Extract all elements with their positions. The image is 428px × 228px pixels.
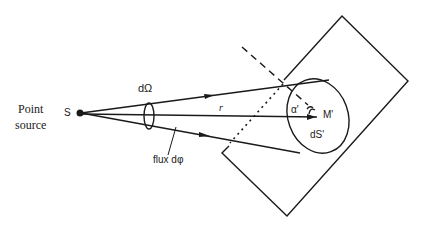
point-label: M' <box>323 110 333 120</box>
distance-label: r <box>219 103 223 113</box>
angle-label: α' <box>291 105 299 115</box>
point-source-label-line2: source <box>15 119 46 131</box>
normal-dashed-line <box>242 47 308 105</box>
plane-dotted-line <box>230 84 283 143</box>
surface-element-label: dS' <box>310 130 324 140</box>
source-label: S <box>64 108 71 118</box>
arrow-center-icon <box>307 114 316 120</box>
cone-lower-ray <box>81 113 300 153</box>
flux-label: flux dφ <box>153 155 183 165</box>
flux-pointer-line <box>168 127 176 155</box>
point-source-label-line1: Point <box>18 103 43 115</box>
angle-arc-inner <box>309 109 315 114</box>
solid-angle-label: dΩ <box>138 83 152 94</box>
center-ray <box>81 114 317 117</box>
arrow-upper-icon <box>204 94 214 99</box>
point-source-dot <box>77 110 84 117</box>
